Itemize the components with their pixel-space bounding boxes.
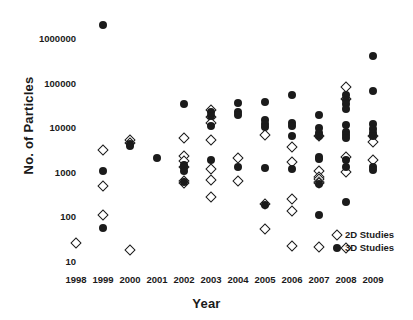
data-point-3d [369, 166, 377, 174]
data-point-3d [180, 167, 188, 175]
data-point-2d [259, 223, 270, 234]
data-point-2d [286, 240, 297, 251]
data-point-3d [126, 142, 134, 150]
data-point-2d [97, 144, 108, 155]
data-point-2d [205, 191, 216, 202]
legend-item-3d: 3D Studies [330, 241, 394, 254]
legend-label-3d: 3D Studies [343, 242, 394, 253]
data-point-3d [207, 122, 215, 130]
data-point-3d [234, 163, 242, 171]
data-point-3d [234, 111, 242, 119]
data-point-3d [342, 198, 350, 206]
data-point-3d [180, 178, 188, 186]
data-point-3d [207, 112, 215, 120]
data-point-3d [342, 134, 350, 142]
data-point-3d [315, 132, 323, 140]
data-point-3d [99, 167, 107, 175]
data-point-3d [315, 155, 323, 163]
data-point-2d [286, 194, 297, 205]
filled-circle-icon [330, 241, 343, 254]
data-point-3d [261, 164, 269, 172]
data-point-3d [315, 111, 323, 119]
data-point-3d [261, 98, 269, 106]
data-point-2d [286, 141, 297, 152]
data-point-2d [286, 206, 297, 217]
data-point-3d [315, 211, 323, 219]
data-point-2d [205, 174, 216, 185]
open-diamond-icon [330, 228, 343, 241]
data-point-2d [97, 180, 108, 191]
data-point-3d [261, 201, 269, 209]
data-point-2d [232, 175, 243, 186]
data-point-2d [178, 132, 189, 143]
data-point-2d [313, 241, 324, 252]
data-point-2d [232, 152, 243, 163]
data-point-3d [342, 105, 350, 113]
data-point-3d [234, 99, 242, 107]
legend-label-2d: 2D Studies [343, 229, 394, 240]
chart-legend: 2D Studies 3D Studies [330, 228, 394, 254]
data-point-3d [180, 100, 188, 108]
data-point-3d [288, 132, 296, 140]
data-point-3d [207, 156, 215, 164]
data-point-3d [261, 123, 269, 131]
data-point-3d [288, 91, 296, 99]
data-point-3d [342, 163, 350, 171]
plot-area [0, 0, 413, 320]
data-point-3d [315, 180, 323, 188]
data-point-3d [288, 165, 296, 173]
data-point-2d [70, 238, 81, 249]
data-point-2d [97, 210, 108, 221]
scatter-chart-figure: No. of Particles Year 100000010000010000… [0, 0, 413, 320]
data-point-3d [99, 21, 107, 29]
legend-item-2d: 2D Studies [330, 228, 394, 241]
data-point-3d [369, 52, 377, 60]
data-point-2d [205, 134, 216, 145]
data-point-3d [153, 154, 161, 162]
data-point-3d [99, 224, 107, 232]
data-point-3d [369, 87, 377, 95]
data-point-2d [205, 163, 216, 174]
data-point-3d [288, 122, 296, 130]
data-point-2d [124, 244, 135, 255]
